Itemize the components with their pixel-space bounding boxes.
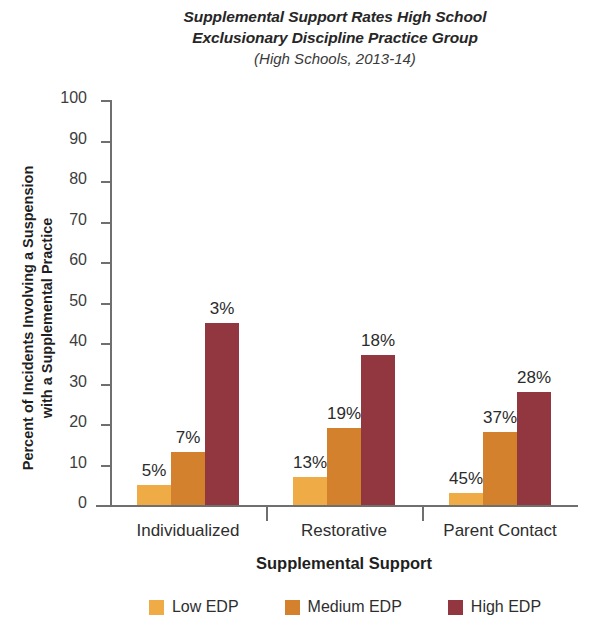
y-tick-10: 10 xyxy=(101,465,110,467)
y-tick-label-60: 60 xyxy=(47,251,87,269)
bar-value-label-parent-contact-medium-edp: 37% xyxy=(483,408,517,428)
bar-value-label-individualized-high-edp: 3% xyxy=(210,299,235,319)
legend-label: High EDP xyxy=(471,598,541,616)
x-axis-title: Supplemental Support xyxy=(110,554,578,573)
y-axis-title-line-1: Percent of Incidents Involving a Suspens… xyxy=(19,108,38,528)
plot-area: 1009080706050403020100 IndividualizedRes… xyxy=(110,100,578,505)
legend-item-high-edp[interactable]: High EDP xyxy=(448,598,541,616)
bar-individualized-medium-edp xyxy=(171,452,205,505)
y-tick-label-10: 10 xyxy=(47,454,87,472)
y-tick-label-100: 100 xyxy=(47,89,87,107)
bar-value-label-restorative-medium-edp: 19% xyxy=(327,404,361,424)
y-tick-label-40: 40 xyxy=(47,332,87,350)
bar-restorative-low-edp xyxy=(293,477,327,505)
legend-item-low-edp[interactable]: Low EDP xyxy=(149,598,239,616)
y-tick-100: 100 xyxy=(101,100,110,102)
bar-individualized-low-edp xyxy=(137,485,171,505)
category-label-restorative: Restorative xyxy=(301,521,387,541)
category-label-parent-contact: Parent Contact xyxy=(443,521,556,541)
bar-restorative-high-edp xyxy=(361,355,395,505)
legend-swatch-icon xyxy=(448,600,463,615)
y-tick-50: 50 xyxy=(101,303,110,305)
bar-value-label-restorative-low-edp: 13% xyxy=(293,453,327,473)
chart-subtitle: (High Schools, 2013-14) xyxy=(95,48,575,70)
y-tick-label-70: 70 xyxy=(47,211,87,229)
chart-title-line-2: Exclusionary Discipline Practice Group xyxy=(95,27,575,48)
y-tick-label-80: 80 xyxy=(47,170,87,188)
y-axis-line xyxy=(110,100,112,506)
x-axis-line xyxy=(96,505,578,507)
y-tick-60: 60 xyxy=(101,262,110,264)
y-tick-70: 70 xyxy=(101,222,110,224)
legend-swatch-icon xyxy=(149,600,164,615)
bar-parent-contact-high-edp xyxy=(517,392,551,505)
y-tick-80: 80 xyxy=(101,181,110,183)
y-tick-label-30: 30 xyxy=(47,373,87,391)
bar-value-label-parent-contact-high-edp: 28% xyxy=(517,368,551,388)
bar-restorative-medium-edp xyxy=(327,428,361,505)
y-tick-label-90: 90 xyxy=(47,130,87,148)
x-separator-tick-1 xyxy=(266,506,268,521)
y-tick-label-50: 50 xyxy=(47,292,87,310)
y-tick-20: 20 xyxy=(101,424,110,426)
bar-value-label-individualized-low-edp: 5% xyxy=(142,461,167,481)
category-label-individualized: Individualized xyxy=(136,521,239,541)
y-tick-0: 0 xyxy=(101,505,110,507)
bar-individualized-high-edp xyxy=(205,323,239,505)
chart-title-block: Supplemental Support Rates High School E… xyxy=(95,6,575,70)
legend-label: Medium EDP xyxy=(308,598,402,616)
bar-value-label-parent-contact-low-edp: 45% xyxy=(449,469,483,489)
legend-swatch-icon xyxy=(285,600,300,615)
y-tick-90: 90 xyxy=(101,141,110,143)
y-tick-label-0: 0 xyxy=(47,494,87,512)
x-separator-tick-2 xyxy=(422,506,424,521)
y-tick-label-20: 20 xyxy=(47,413,87,431)
chart-legend: Low EDPMedium EDPHigh EDP xyxy=(110,598,580,616)
bar-value-label-individualized-medium-edp: 7% xyxy=(176,428,201,448)
y-tick-40: 40 xyxy=(101,343,110,345)
legend-item-medium-edp[interactable]: Medium EDP xyxy=(285,598,402,616)
legend-label: Low EDP xyxy=(172,598,239,616)
bar-parent-contact-low-edp xyxy=(449,493,483,505)
chart-title-line-1: Supplemental Support Rates High School xyxy=(95,6,575,27)
bar-parent-contact-medium-edp xyxy=(483,432,517,505)
y-tick-30: 30 xyxy=(101,384,110,386)
bar-value-label-restorative-high-edp: 18% xyxy=(361,331,395,351)
